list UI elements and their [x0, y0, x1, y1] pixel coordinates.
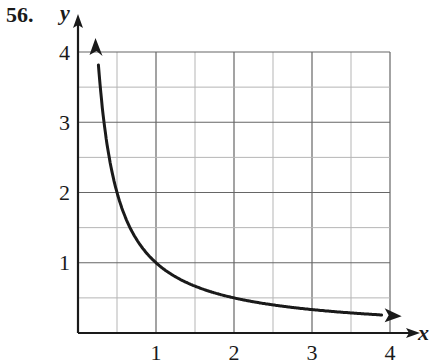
curve-right-arrow-icon: [385, 308, 402, 322]
curve-y-equals-1-over-x: [98, 65, 381, 315]
curve-top-arrow-icon: [90, 38, 103, 56]
